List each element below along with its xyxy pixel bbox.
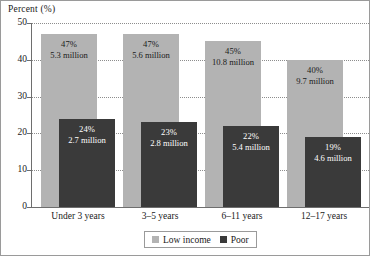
bar-pct: 19% — [305, 142, 361, 153]
y-tick-label-10: 10 — [3, 164, 27, 174]
y-tick-label-50: 50 — [3, 17, 27, 27]
bar-count: 2.7 million — [59, 135, 115, 146]
bar-label-low-income-0: 47%5.3 million — [41, 39, 97, 61]
plot-area: 47%5.3 million24%2.7 million47%5.6 milli… — [31, 23, 369, 207]
bar-poor-2[interactable]: 22%5.4 million — [223, 126, 279, 207]
bar-count: 5.3 million — [41, 50, 97, 61]
y-tick-label-40: 40 — [3, 54, 27, 64]
bar-label-low-income-2: 45%10.8 million — [205, 46, 261, 68]
bar-label-poor-2: 22%5.4 million — [223, 131, 279, 153]
y-axis-title: Percent (%) — [8, 4, 55, 14]
y-tick-label-30: 30 — [3, 91, 27, 101]
bar-count: 4.6 million — [305, 153, 361, 164]
bar-pct: 22% — [223, 131, 279, 142]
bar-label-poor-3: 19%4.6 million — [305, 142, 361, 164]
bar-poor-3[interactable]: 19%4.6 million — [305, 137, 361, 207]
bar-count: 10.8 million — [205, 57, 261, 68]
bar-label-low-income-1: 47%5.6 million — [123, 39, 179, 61]
legend-swatch-icon-poor — [220, 236, 227, 243]
legend-item-low-income[interactable]: Low income — [152, 235, 211, 245]
bar-count: 2.8 million — [141, 138, 197, 149]
bar-count: 5.6 million — [123, 50, 179, 61]
y-tick-mark-0 — [27, 207, 32, 208]
legend-label: Poor — [231, 235, 249, 245]
y-tick-label-20: 20 — [3, 127, 27, 137]
legend-item-poor[interactable]: Poor — [220, 235, 249, 245]
bar-label-poor-0: 24%2.7 million — [59, 124, 115, 146]
legend-label: Low income — [163, 235, 211, 245]
chart-legend: Low incomePoor — [144, 231, 257, 248]
category-label-1: 3–5 years — [115, 211, 205, 221]
bar-pct: 47% — [123, 39, 179, 50]
category-label-0: Under 3 years — [33, 211, 123, 221]
bar-pct: 40% — [287, 65, 343, 76]
bar-count: 9.7 million — [287, 76, 343, 87]
bar-poor-0[interactable]: 24%2.7 million — [59, 119, 115, 207]
bar-pct: 47% — [41, 39, 97, 50]
bar-label-low-income-3: 40%9.7 million — [287, 65, 343, 87]
y-tick-label-0: 0 — [3, 201, 27, 211]
bar-poor-1[interactable]: 23%2.8 million — [141, 122, 197, 207]
category-label-2: 6–11 years — [197, 211, 287, 221]
bar-pct: 45% — [205, 46, 261, 57]
chart-frame: Percent (%) 01020304050 47%5.3 million24… — [0, 0, 370, 256]
x-axis-line — [31, 207, 369, 208]
bar-pct: 23% — [141, 127, 197, 138]
legend-swatch-icon-low-income — [152, 236, 159, 243]
bar-pct: 24% — [59, 124, 115, 135]
bar-count: 5.4 million — [223, 142, 279, 153]
category-label-3: 12–17 years — [279, 211, 369, 221]
bar-label-poor-1: 23%2.8 million — [141, 127, 197, 149]
